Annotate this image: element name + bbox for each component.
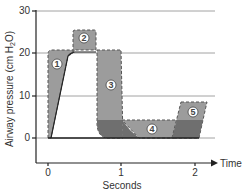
region-2-label: 2 — [81, 33, 86, 43]
y-tick-0: 0 — [24, 132, 30, 143]
x-axis-title: Seconds — [103, 180, 142, 191]
x-tick-2: 2 — [192, 167, 198, 178]
y-tick-10: 10 — [19, 90, 31, 101]
region-4-label: 4 — [149, 124, 154, 134]
airway-pressure-chart: 1 2 3 4 5 30 20 10 0 0 1 2 Seconds Time … — [0, 0, 244, 194]
y-tick-30: 30 — [19, 5, 31, 16]
region-1-label: 1 — [54, 59, 59, 69]
region-3-dark — [97, 120, 123, 138]
region-5-dark — [172, 120, 203, 138]
time-arrow-label: Time — [220, 158, 242, 169]
x-tick-0: 0 — [45, 167, 51, 178]
region-5-label: 5 — [190, 107, 195, 117]
region-3-label: 3 — [108, 80, 113, 90]
y-tick-20: 20 — [19, 47, 31, 58]
time-arrow-head-icon — [211, 160, 218, 167]
y-axis-title: Airway pressure (cm H2O) — [4, 31, 16, 147]
x-tick-1: 1 — [118, 167, 124, 178]
